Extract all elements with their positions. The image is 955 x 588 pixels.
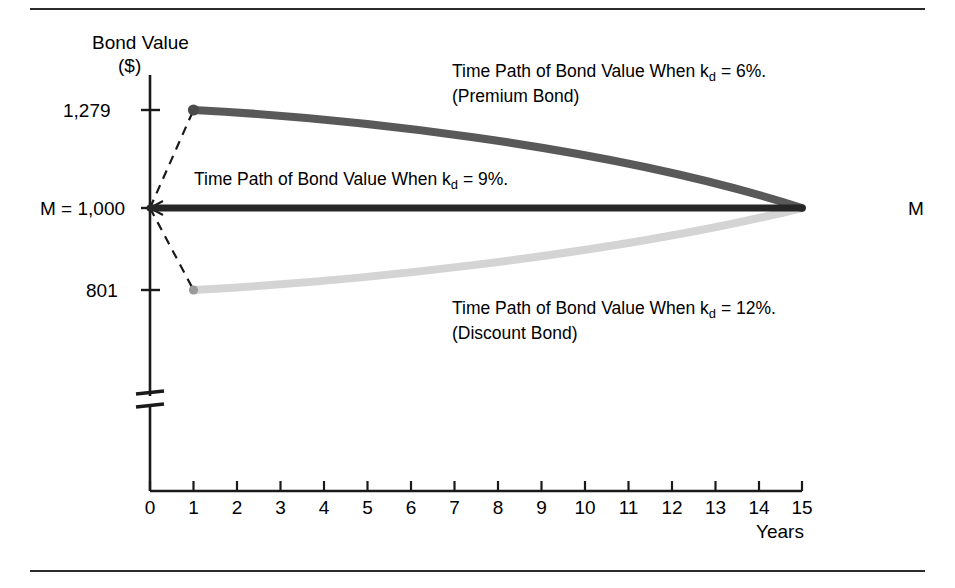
y-tick-label-maturity-value: M = 1,000 [40,198,125,219]
annotation-par-bond: Time Path of Bond Value When kd = 9%. [194,168,508,193]
discount-bond-curve [194,208,803,290]
discount-connector-dashed [150,208,194,290]
x-tick-label-2: 2 [220,497,254,519]
discount-start-marker [189,285,198,294]
x-tick-label-13: 13 [699,497,733,519]
x-tick-label-9: 9 [525,497,559,519]
x-axis-title: Years [756,521,804,542]
x-tick-label-5: 5 [351,497,385,519]
x-tick-label-12: 12 [655,497,689,519]
premium-connector-dashed [150,110,194,208]
annotation-premium-bond: Time Path of Bond Value When kd = 6%. (P… [452,60,766,107]
x-tick-label-15: 15 [785,497,819,519]
annotation-discount-bond: Time Path of Bond Value When kd = 12%. (… [452,297,776,344]
y-tick-label-801: 801 [86,280,118,301]
annotation-discount-line1: Time Path of Bond Value When kd = 12%. [452,298,776,318]
bond-value-time-path-figure: Bond Value ($) 1,279 M = 1,000 801 M 0 1… [0,0,955,588]
premium-bond-curve [194,110,803,208]
annotation-discount-subscript: d [709,306,716,321]
annotation-premium-line1: Time Path of Bond Value When kd = 6%. [452,61,766,81]
x-tick-label-7: 7 [438,497,472,519]
y-axis-break-mark-upper [136,391,164,394]
x-tick-label-3: 3 [264,497,298,519]
x-tick-label-6: 6 [394,497,428,519]
x-tick-marks [150,481,802,491]
y-tick-label-1279: 1,279 [63,100,111,121]
annotation-premium-subscript: d [709,69,716,84]
y-axis-break-mark-lower [136,404,164,407]
annotation-discount-line2: (Discount Bond) [452,322,776,344]
annotation-par-subscript: d [451,177,458,192]
x-tick-label-1: 1 [177,497,211,519]
x-tick-label-0: 0 [133,497,167,519]
x-tick-label-4: 4 [307,497,341,519]
x-tick-label-10: 10 [568,497,602,519]
annotation-premium-line2: (Premium Bond) [452,85,766,107]
y-axis-title: Bond Value [92,32,189,53]
y-axis-unit-label: ($) [118,55,141,76]
annotation-par-line1: Time Path of Bond Value When kd = 9%. [194,169,508,189]
x-tick-label-14: 14 [742,497,776,519]
premium-start-marker [188,104,199,115]
x-tick-label-8: 8 [481,497,515,519]
maturity-right-label: M [908,198,924,219]
x-tick-label-11: 11 [612,497,646,519]
